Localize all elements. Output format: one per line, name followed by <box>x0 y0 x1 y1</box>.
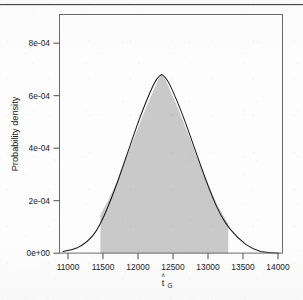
y-tick-label-6e-04: 6e-04 <box>29 91 51 101</box>
x-tick-label-12000: 12000 <box>126 262 150 272</box>
x-axis-tick-labels: 11000 11500 12000 12500 13000 13500 1400… <box>57 262 290 272</box>
y-tick-label-4e-04: 4e-04 <box>29 143 51 153</box>
x-tick-label-12500: 12500 <box>161 262 185 272</box>
y-axis-label: Probability density <box>10 96 20 171</box>
x-axis-ticks <box>68 253 278 259</box>
page-horizontal-rule <box>0 4 303 5</box>
x-axis-label: t ˄ G <box>161 272 172 289</box>
y-tick-label-2e-04: 2e-04 <box>29 196 51 206</box>
x-axis-label-base: t <box>162 278 165 288</box>
y-axis-ticks <box>54 43 60 253</box>
figure-page: 8e-04 6e-04 4e-04 2e-04 0e+00 11000 1150… <box>0 0 303 300</box>
y-tick-label-0e00: 0e+00 <box>26 248 50 258</box>
y-tick-label-8e-04: 8e-04 <box>29 38 51 48</box>
x-tick-label-13000: 13000 <box>196 262 220 272</box>
x-axis-label-subscript: G <box>168 282 173 289</box>
x-axis-label-hat: ˄ <box>161 272 165 279</box>
x-tick-label-13500: 13500 <box>231 262 255 272</box>
density-plot: 8e-04 6e-04 4e-04 2e-04 0e+00 11000 1150… <box>0 0 303 300</box>
shaded-confidence-region <box>100 75 228 253</box>
density-chart-svg: 8e-04 6e-04 4e-04 2e-04 0e+00 11000 1150… <box>0 0 303 300</box>
x-tick-label-14000: 14000 <box>266 262 290 272</box>
x-tick-label-11000: 11000 <box>57 262 80 272</box>
y-axis-tick-labels: 8e-04 6e-04 4e-04 2e-04 0e+00 <box>26 38 50 258</box>
x-tick-label-11500: 11500 <box>92 262 115 272</box>
